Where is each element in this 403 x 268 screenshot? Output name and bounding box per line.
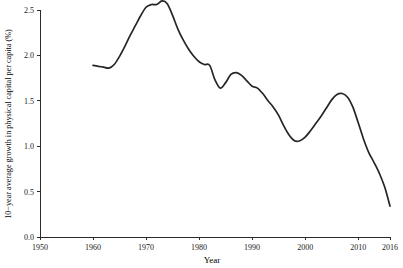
x-tick-label: 1960 <box>85 243 101 252</box>
y-tick-label: 1.0 <box>24 142 34 151</box>
y-tick-label: 0.5 <box>24 188 34 197</box>
data-series-group <box>93 1 390 206</box>
x-tick-label: 1950 <box>32 243 48 252</box>
line-chart-plot: 0.00.51.01.52.02.5 195019601970198019902… <box>0 0 403 268</box>
y-tick-label: 1.5 <box>24 97 34 106</box>
chart-container: 0.00.51.01.52.02.5 195019601970198019902… <box>0 0 403 268</box>
data-line-series <box>93 1 390 206</box>
x-axis: 19501960197019801990200020102016 <box>32 237 398 252</box>
y-axis: 0.00.51.01.52.02.5 <box>24 6 40 242</box>
y-tick-label: 2.5 <box>24 6 34 15</box>
x-tick-label: 1970 <box>138 243 154 252</box>
y-tick-label: 0.0 <box>24 233 34 242</box>
x-tick-label: 2000 <box>297 243 313 252</box>
x-tick-label: 1980 <box>191 243 207 252</box>
y-axis-title: 10−year average growth in physical capit… <box>4 29 13 219</box>
x-tick-label: 2010 <box>350 243 366 252</box>
x-tick-label: 2016 <box>382 243 398 252</box>
x-axis-title: Year <box>204 255 221 265</box>
y-tick-label: 2.0 <box>24 51 34 60</box>
x-tick-label: 1990 <box>244 243 260 252</box>
